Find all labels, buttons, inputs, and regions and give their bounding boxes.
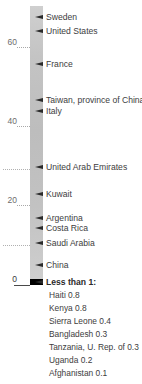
less-than-one-item-bangladesh: Bangladesh 0.3 xyxy=(49,329,107,339)
marker-costa-rica xyxy=(35,226,43,230)
label-united-states: United States xyxy=(46,26,98,36)
label-france: France xyxy=(46,59,73,69)
marker-kuwait xyxy=(35,192,43,196)
gridline-0 xyxy=(14,285,30,286)
less-than-one-item-tanzania: Tanzania, U. Rep. of 0.3 xyxy=(49,342,139,352)
axis-tick-label-60: 60 xyxy=(3,38,17,47)
axis-tick-label-0: 0 xyxy=(3,275,17,284)
marker-united-arab-emirates xyxy=(35,165,43,169)
marker-france xyxy=(35,62,43,66)
label-taiwan-province-of-china: Taiwan, province of China xyxy=(46,95,142,105)
label-china: China xyxy=(46,260,68,270)
gridline-60 xyxy=(17,47,30,48)
less-than-one-item-afghanistan: Afghanistan 0.1 xyxy=(49,368,107,378)
marker-less-than-one xyxy=(35,280,43,284)
leadline-united-arab-emirates xyxy=(3,169,30,170)
marker-united-states xyxy=(35,29,43,33)
label-sweden: Sweden xyxy=(46,12,77,22)
gridline-20 xyxy=(17,205,30,206)
marker-sweden xyxy=(35,15,43,19)
less-than-one-item-sierra-leone: Sierra Leone 0.4 xyxy=(49,316,111,326)
marker-saudi-arabia xyxy=(35,241,43,245)
label-saudi-arabia: Saudi Arabia xyxy=(46,238,95,248)
label-kuwait: Kuwait xyxy=(46,189,72,199)
marker-argentina xyxy=(35,216,43,220)
less-than-one-item-uganda: Uganda 0.2 xyxy=(49,355,92,365)
label-argentina: Argentina xyxy=(46,213,83,223)
axis-tick-label-20: 20 xyxy=(3,196,17,205)
axis-tick-label-40: 40 xyxy=(3,117,17,126)
gridline-40 xyxy=(17,126,30,127)
marker-taiwan-province-of-china xyxy=(35,98,43,102)
less-than-one-item-haiti: Haiti 0.8 xyxy=(49,290,80,300)
less-than-one-title: Less than 1: xyxy=(46,277,96,287)
less-than-one-item-kenya: Kenya 0.8 xyxy=(49,303,87,313)
marker-italy xyxy=(35,109,43,113)
vertical-scale-chart: 60 40 20 0 Sweden United States France T… xyxy=(0,0,142,384)
label-united-arab-emirates: United Arab Emirates xyxy=(46,162,127,172)
marker-china xyxy=(35,263,43,267)
leadline-saudi-arabia xyxy=(3,245,30,246)
label-italy: Italy xyxy=(46,106,62,116)
label-costa-rica: Costa Rica xyxy=(46,223,88,233)
